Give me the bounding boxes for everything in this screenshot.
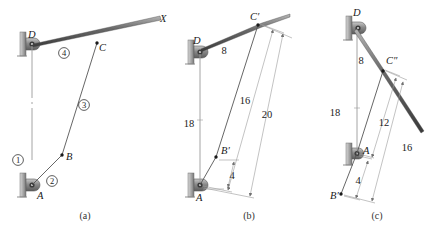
link-number-2-a: 2: [47, 176, 58, 187]
label-C-prime-b: C′: [250, 11, 260, 22]
link-number-1-a: 1: [13, 155, 24, 166]
label-C-a: C: [99, 42, 107, 53]
link-number-4-a-text: 4: [62, 48, 67, 58]
dimension-20-b-text: 20: [262, 109, 273, 120]
label-C-double-prime-c: C″: [386, 55, 398, 66]
caption-b: (b): [243, 210, 255, 222]
link-3-c: [357, 71, 383, 153]
dimension-20-b: 20: [204, 25, 292, 198]
label-A-c: A: [362, 145, 370, 156]
dimension-4-b: 4: [203, 160, 239, 189]
link-number-1-a-text: 1: [16, 155, 20, 165]
dimension-4-c-text: 4: [355, 175, 361, 186]
link-2-b: [200, 157, 216, 185]
dimension-18-b-text: 18: [184, 118, 195, 129]
dimension-18-c-text: 18: [330, 107, 341, 118]
caption-c: (c): [371, 210, 382, 222]
caption-a: (a): [79, 210, 90, 222]
linkage-figure: 1 2 3 4 D C X B A: [0, 0, 437, 236]
link-number-3-a-text: 3: [82, 100, 86, 110]
dimension-8-c-text: 8: [358, 55, 363, 66]
panel-a: 1 2 3 4 D C X B A: [13, 13, 167, 201]
joint-B-prime-c: [339, 192, 342, 195]
label-X-a: X: [159, 13, 167, 24]
dimension-16-b: 16: [203, 24, 284, 192]
joint-C-prime-b: [256, 23, 259, 26]
label-B-prime-c: B′: [330, 190, 339, 201]
pivot-D-c: [343, 16, 366, 40]
link-number-2-a-text: 2: [50, 176, 54, 186]
joint-B-a: [60, 153, 63, 156]
link-number-4-a: 4: [59, 48, 70, 59]
label-A-b: A: [195, 192, 203, 203]
link-3-a: [62, 43, 97, 155]
dimension-8-b-text: 8: [221, 45, 226, 56]
figure-canvas: 1 2 3 4 D C X B A: [0, 0, 437, 236]
label-B-prime-b: B′: [221, 145, 230, 156]
dimension-16-c-text: 16: [402, 142, 413, 153]
joint-B-prime-b: [214, 155, 217, 158]
label-B-a: B: [66, 151, 73, 162]
label-D-a: D: [27, 29, 36, 40]
link-number-3-a: 3: [79, 100, 90, 111]
panel-b: 4 16 20 18 8 D C′ B′ A: [184, 11, 292, 203]
link-4-bar-b: [201, 14, 290, 52]
label-D-b: D: [192, 35, 201, 46]
dimension-12-c-text: 12: [379, 117, 390, 128]
label-D-c: D: [352, 7, 361, 18]
joint-C-double-prime-c: [381, 69, 384, 72]
dimension-16-b-text: 16: [240, 95, 251, 106]
label-A-a: A: [36, 190, 44, 201]
panel-c: 4 12 16 18 8 D C″ A B′: [330, 7, 424, 203]
dimension-18-c: 18: [330, 107, 360, 118]
